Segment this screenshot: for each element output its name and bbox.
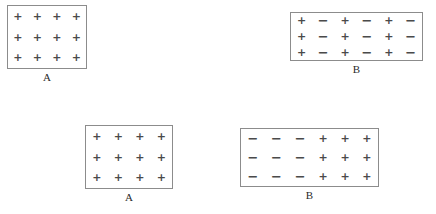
panel-label-bottom-left: A (85, 191, 173, 203)
plus-charge-icon: + (8, 32, 28, 43)
panel-top-right: +−+−+−+−+−+−+−+−+− B (290, 12, 423, 61)
minus-charge-icon: − (241, 170, 265, 183)
minus-charge-icon: − (356, 14, 379, 27)
plus-charge-icon: + (86, 131, 108, 142)
charge-row: −−−+++ (241, 148, 378, 167)
plus-charge-icon: + (312, 133, 334, 144)
charge-row: −−−+++ (241, 167, 378, 186)
minus-charge-icon: − (399, 14, 422, 27)
minus-charge-icon: − (312, 30, 335, 43)
plus-charge-icon: + (8, 11, 28, 22)
plus-charge-icon: + (108, 152, 130, 163)
charge-row: ++++ (86, 147, 172, 168)
charge-row: ++++ (86, 167, 172, 188)
minus-charge-icon: − (265, 132, 289, 145)
plus-charge-icon: + (108, 172, 130, 183)
minus-charge-icon: − (356, 30, 379, 43)
panel-bottom-right: −−−+++−−−+++−−−+++ B (240, 128, 379, 187)
panel-label-top-right: B (290, 63, 423, 75)
minus-charge-icon: − (265, 170, 289, 183)
minus-charge-icon: − (312, 14, 335, 27)
plus-charge-icon: + (47, 11, 67, 22)
charge-box-bottom-right: −−−+++−−−+++−−−+++ (240, 128, 379, 187)
plus-charge-icon: + (28, 11, 48, 22)
plus-charge-icon: + (86, 172, 108, 183)
minus-charge-icon: − (241, 132, 265, 145)
plus-charge-icon: + (312, 171, 334, 182)
plus-charge-icon: + (334, 133, 356, 144)
plus-charge-icon: + (151, 172, 173, 183)
plus-charge-icon: + (28, 32, 48, 43)
plus-charge-icon: + (129, 152, 151, 163)
minus-charge-icon: − (399, 30, 422, 43)
charge-row: +−+−+− (291, 29, 422, 45)
panel-top-left: ++++++++++++ A (7, 5, 87, 69)
plus-charge-icon: + (378, 47, 399, 58)
plus-charge-icon: + (335, 47, 356, 58)
panel-bottom-left: ++++++++++++ A (85, 125, 173, 189)
plus-charge-icon: + (356, 133, 378, 144)
plus-charge-icon: + (151, 131, 173, 142)
plus-charge-icon: + (129, 172, 151, 183)
plus-charge-icon: + (378, 31, 399, 42)
charge-box-bottom-left: ++++++++++++ (85, 125, 173, 189)
plus-charge-icon: + (108, 131, 130, 142)
charge-row: +−+−+− (291, 44, 422, 60)
minus-charge-icon: − (312, 46, 335, 59)
charge-row: −−−+++ (241, 129, 378, 148)
plus-charge-icon: + (67, 52, 87, 63)
plus-charge-icon: + (67, 11, 87, 22)
plus-charge-icon: + (67, 32, 87, 43)
charge-row: ++++ (86, 126, 172, 147)
charge-box-top-left: ++++++++++++ (7, 5, 87, 69)
plus-charge-icon: + (86, 152, 108, 163)
plus-charge-icon: + (129, 131, 151, 142)
plus-charge-icon: + (47, 32, 67, 43)
plus-charge-icon: + (291, 47, 312, 58)
minus-charge-icon: − (241, 151, 265, 164)
plus-charge-icon: + (356, 171, 378, 182)
plus-charge-icon: + (378, 15, 399, 26)
plus-charge-icon: + (334, 152, 356, 163)
panel-label-top-left: A (7, 71, 87, 83)
plus-charge-icon: + (335, 15, 356, 26)
minus-charge-icon: − (265, 151, 289, 164)
plus-charge-icon: + (291, 31, 312, 42)
charge-row: +−+−+− (291, 13, 422, 29)
plus-charge-icon: + (28, 52, 48, 63)
charge-row: ++++ (8, 47, 86, 68)
plus-charge-icon: + (47, 52, 67, 63)
plus-charge-icon: + (312, 152, 334, 163)
minus-charge-icon: − (288, 170, 312, 183)
plus-charge-icon: + (291, 15, 312, 26)
minus-charge-icon: − (356, 46, 379, 59)
minus-charge-icon: − (288, 132, 312, 145)
plus-charge-icon: + (356, 152, 378, 163)
charge-row: ++++ (8, 6, 86, 27)
plus-charge-icon: + (335, 31, 356, 42)
charge-box-top-right: +−+−+−+−+−+−+−+−+− (290, 12, 423, 61)
minus-charge-icon: − (288, 151, 312, 164)
figure-canvas: ++++++++++++ A +−+−+−+−+−+−+−+−+− B ++++… (0, 0, 436, 214)
charge-row: ++++ (8, 27, 86, 48)
plus-charge-icon: + (151, 152, 173, 163)
plus-charge-icon: + (8, 52, 28, 63)
plus-charge-icon: + (334, 171, 356, 182)
panel-label-bottom-right: B (240, 189, 379, 201)
minus-charge-icon: − (399, 46, 422, 59)
